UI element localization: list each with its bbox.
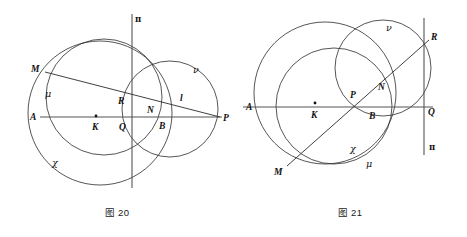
- label-chi: χ: [51, 157, 59, 168]
- figure-21-drawing: AνRKPNBQχμMπ: [233, 0, 467, 200]
- circle-nu: [122, 61, 218, 157]
- figure-20-caption: 图 20: [0, 205, 234, 219]
- diagram-page: AMμKQRNBlνχPπ 图 20 AνRKPNBQχμMπ 图 21: [0, 0, 467, 237]
- label-A: A: [245, 102, 252, 112]
- label-N: N: [146, 105, 155, 115]
- label-M: M: [30, 64, 40, 74]
- label-B: B: [368, 111, 375, 121]
- label-P: P: [350, 90, 356, 100]
- label-l: l: [180, 93, 183, 103]
- line-secant-MR: [287, 40, 429, 166]
- label-N: N: [377, 82, 386, 92]
- figure-21-panel: AνRKPNBQχμMπ 图 21: [233, 0, 467, 237]
- label-pi: π: [429, 142, 435, 152]
- figure-21-caption: 图 21: [233, 205, 467, 219]
- circle-nu: [335, 20, 431, 116]
- dot-center-K: [95, 115, 98, 118]
- label-A: A: [29, 112, 36, 122]
- circle-chi: [254, 22, 396, 164]
- label-pi: π: [135, 14, 141, 24]
- label-mu: μ: [366, 158, 372, 169]
- label-B: B: [158, 121, 165, 131]
- label-nu: ν: [386, 22, 392, 33]
- label-M: M: [273, 167, 283, 177]
- label-R: R: [430, 32, 437, 42]
- label-K: K: [91, 122, 99, 132]
- label-P: P: [223, 113, 229, 123]
- label-nu: ν: [193, 64, 199, 75]
- label-Q: Q: [428, 107, 435, 117]
- circle-mu: [276, 48, 392, 164]
- dot-center-K: [314, 102, 317, 105]
- label-R: R: [117, 96, 124, 106]
- figure-20-drawing: AMμKQRNBlνχPπ: [0, 0, 234, 200]
- label-K: K: [310, 110, 318, 120]
- label-chi: χ: [349, 143, 357, 154]
- label-Q: Q: [119, 122, 126, 132]
- label-mu: μ: [45, 88, 51, 99]
- figure-20-panel: AMμKQRNBlνχPπ 图 20: [0, 0, 234, 237]
